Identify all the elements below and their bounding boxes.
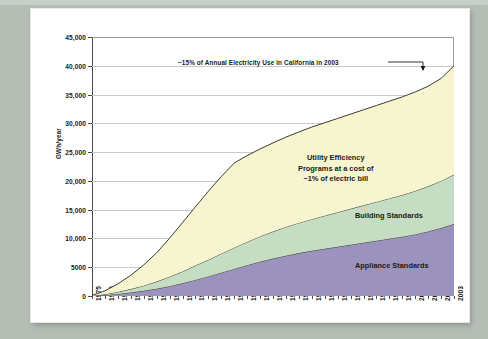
- x-tick-mark: [260, 296, 261, 299]
- x-tick-mark: [428, 296, 429, 299]
- x-tick-mark: [364, 296, 365, 299]
- total-callout-text: ~15% of Annual Electricity Use in Califo…: [178, 59, 339, 66]
- x-tick-mark: [402, 296, 403, 299]
- x-tick-mark: [389, 296, 390, 299]
- x-tick-mark: [157, 296, 158, 299]
- x-tick-mark: [454, 296, 455, 299]
- x-tick-mark: [286, 296, 287, 299]
- appliance-standards-label: Appliance Standards: [355, 261, 429, 272]
- utility-efficiency-label-line3: ~1% of electric bill: [298, 174, 374, 185]
- x-tick-mark: [338, 296, 339, 299]
- x-tick-mark: [195, 296, 196, 299]
- x-tick-mark: [183, 296, 184, 299]
- utility-efficiency-label: Utility Efficiency Programs at a cost of…: [298, 153, 374, 185]
- plot-area: 45,00040,00035,00030,00025,00020,00015,0…: [92, 37, 454, 296]
- y-tick-label: 45,000: [65, 34, 86, 41]
- y-axis-title: GWh/year: [55, 128, 62, 159]
- utility-efficiency-label-line2: Programs at a cost of: [298, 164, 374, 175]
- x-tick-mark: [208, 296, 209, 299]
- y-tick-label: 0: [82, 293, 86, 300]
- x-tick-mark: [234, 296, 235, 299]
- x-tick-mark: [144, 296, 145, 299]
- y-tick-label: 35,000: [65, 91, 86, 98]
- x-tick-label: 2003: [457, 286, 464, 301]
- x-tick-mark: [221, 296, 222, 299]
- x-tick-mark: [299, 296, 300, 299]
- x-tick-mark: [170, 296, 171, 299]
- x-tick-mark: [92, 296, 93, 299]
- x-tick-mark: [247, 296, 248, 299]
- x-tick-mark: [105, 296, 106, 299]
- chart-card: GWh/year 45,00040,00035,00030,00025,0002…: [31, 9, 469, 322]
- y-tick-label: 30,000: [65, 120, 86, 127]
- utility-efficiency-label-line1: Utility Efficiency: [298, 153, 374, 164]
- x-tick-mark: [351, 296, 352, 299]
- x-tick-mark: [118, 296, 119, 299]
- building-standards-label: Building Standards: [355, 211, 423, 222]
- y-tick-label: 25,000: [65, 149, 86, 156]
- x-tick-mark: [131, 296, 132, 299]
- screenshot-root: GWh/year 45,00040,00035,00030,00025,0002…: [0, 0, 488, 339]
- y-tick-label: 10,000: [65, 235, 86, 242]
- y-tick-label: 15,000: [65, 206, 86, 213]
- x-tick-mark: [325, 296, 326, 299]
- x-tick-mark: [273, 296, 274, 299]
- x-tick-mark: [441, 296, 442, 299]
- y-tick-label: 40,000: [65, 62, 86, 69]
- stacked-area-series: [92, 37, 454, 296]
- x-tick-mark: [376, 296, 377, 299]
- y-tick-label: 5000: [71, 264, 86, 271]
- x-tick-mark: [312, 296, 313, 299]
- y-tick-label: 20,000: [65, 177, 86, 184]
- x-tick-mark: [415, 296, 416, 299]
